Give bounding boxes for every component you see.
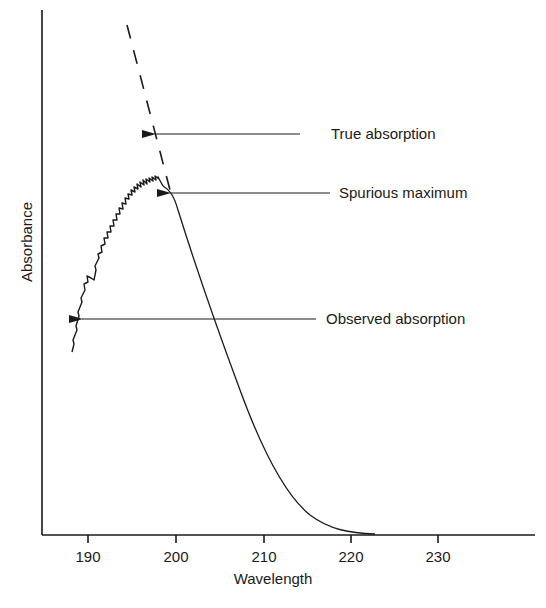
true-absorption-curve [127,25,170,190]
y-axis-label: Absorbance [18,202,35,282]
observed-absorption-curve [163,186,375,534]
x-tick-label-230: 230 [425,548,450,565]
x-tick-label-190: 190 [75,548,100,565]
observed-absorption-noisy [72,176,163,352]
x-tick-label-210: 210 [251,548,276,565]
absorbance-chart: 190 200 210 220 230 Wavelength Absorbanc… [0,0,546,608]
true-absorption-label: True absorption [331,125,436,142]
spurious-maximum-label: Spurious maximum [339,184,467,201]
x-tick-label-220: 220 [338,548,363,565]
observed-absorption-label: Observed absorption [326,310,465,327]
x-axis-label: Wavelength [234,570,313,587]
x-tick-label-200: 200 [163,548,188,565]
x-ticks [88,535,438,543]
